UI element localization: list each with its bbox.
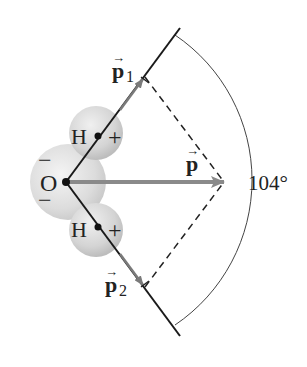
hydrogen-bottom-charge: + <box>108 217 122 243</box>
angle-label: 104° <box>248 171 288 195</box>
hydrogen-bottom-dot <box>95 224 102 231</box>
oxygen-charge-top: − <box>38 147 52 173</box>
dashed-line-top <box>145 77 224 182</box>
oxygen-charge-bottom: − <box>38 187 52 213</box>
label-p: → p <box>186 143 199 176</box>
p1-subscript: 1 <box>126 68 134 85</box>
p2-base: p <box>105 272 117 297</box>
water-dipole-diagram: O − − H + H + → p 1 → p → p 2 104° <box>0 0 307 367</box>
hydrogen-top-charge: + <box>108 124 122 150</box>
dipole-p2-arrow <box>120 254 143 285</box>
p1-base: p <box>112 58 124 83</box>
hydrogen-bottom-label: H <box>71 217 87 242</box>
hydrogen-top-label: H <box>71 124 87 149</box>
hydrogen-top-dot <box>95 133 102 140</box>
label-p1: → p 1 <box>112 50 134 85</box>
p2-subscript: 2 <box>119 282 127 299</box>
dashed-line-bottom <box>145 182 224 287</box>
label-p2: → p 2 <box>105 264 127 299</box>
oxygen-nucleus-dot <box>62 178 70 186</box>
p-base: p <box>186 151 198 176</box>
